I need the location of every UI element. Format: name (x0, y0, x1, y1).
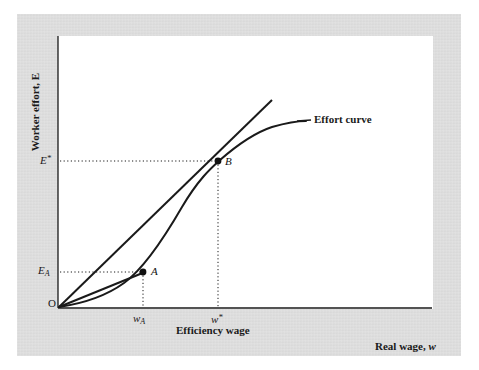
point-marker-A (140, 269, 147, 276)
origin-label: O (48, 297, 56, 309)
x-tick-label-w-A: wA (133, 312, 145, 326)
y-axis-label-text: Worker effort, E (29, 73, 41, 151)
tangent-ray-OB (59, 100, 272, 307)
x-axis-label-outer: Real wage, w (375, 340, 436, 352)
effort-curve (59, 121, 306, 307)
y-tick-label-E-A: EA (38, 264, 50, 278)
effort-curve-leader-line (297, 120, 311, 121)
x-tick-label-w-star: w* (211, 312, 223, 325)
y-tick-label-E-star: E* (40, 153, 51, 166)
y-tick-E-star-base: E (40, 154, 47, 166)
point-label-B: B (225, 155, 232, 167)
effort-curve-label: Effort curve (314, 113, 372, 125)
x-tick-w-star-superscript: * (218, 312, 222, 322)
x-axis-label-outer-variable: w (428, 340, 435, 352)
y-tick-E-A-base: E (38, 264, 45, 276)
point-label-A: A (151, 265, 158, 277)
y-axis-label-wrapper: Worker effort, E (22, 36, 40, 196)
y-tick-E-star-superscript: * (47, 153, 51, 163)
figure-root: Worker effort, E O E* EA wA w* B A Effic… (0, 0, 479, 370)
x-tick-w-A-subscript: A (140, 317, 145, 326)
y-tick-E-A-subscript: A (45, 269, 50, 278)
x-axis-label-inner: Efficiency wage (176, 324, 250, 336)
chart-svg (0, 0, 479, 370)
point-marker-B (215, 158, 222, 165)
